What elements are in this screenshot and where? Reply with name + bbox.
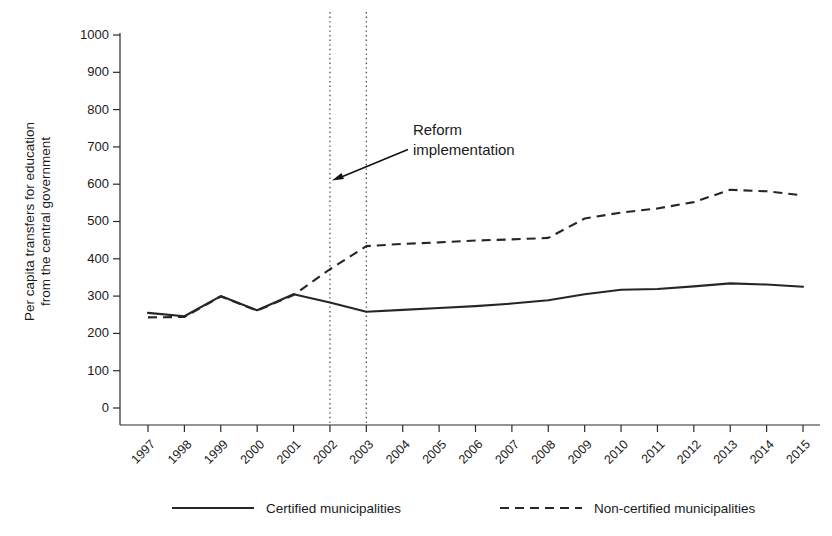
x-tick-label: 1998 bbox=[165, 437, 195, 467]
x-tick-label: 2004 bbox=[383, 437, 413, 467]
x-tick-label: 1999 bbox=[201, 437, 231, 467]
chart-legend: Certified municipalitiesNon-certified mu… bbox=[172, 501, 756, 516]
x-tick-label: 2011 bbox=[639, 437, 668, 466]
x-tick-label: 2010 bbox=[602, 437, 632, 467]
x-tick-label: 2009 bbox=[565, 437, 595, 467]
y-tick-label: 0 bbox=[102, 400, 109, 415]
x-tick-label: 2000 bbox=[238, 437, 268, 467]
chart-figure: Per capita transfers for educationfrom t… bbox=[0, 0, 832, 536]
y-tick-label: 600 bbox=[87, 176, 109, 191]
y-tick-label: 1000 bbox=[80, 27, 109, 42]
y-axis-ticks: 01002003004005006007008009001000 bbox=[80, 27, 120, 415]
x-tick-label: 1997 bbox=[129, 437, 159, 467]
x-tick-label: 2013 bbox=[711, 437, 741, 467]
axis-lines bbox=[120, 33, 820, 425]
line-chart: Per capita transfers for educationfrom t… bbox=[0, 0, 832, 536]
x-tick-label: 2005 bbox=[420, 437, 450, 467]
y-tick-label: 900 bbox=[87, 64, 109, 79]
reform-annotation: Reformimplementation bbox=[332, 121, 515, 180]
annotation-arrow-shaft bbox=[339, 149, 408, 178]
y-axis-title-line1: Per capita transfers for education bbox=[22, 122, 37, 321]
y-tick-label: 100 bbox=[87, 363, 109, 378]
series-line-certified-municipalities bbox=[148, 283, 803, 316]
x-tick-label: 2003 bbox=[347, 437, 377, 467]
x-tick-label: 2006 bbox=[456, 437, 486, 467]
x-tick-label: 2012 bbox=[674, 437, 704, 467]
x-tick-label: 2015 bbox=[784, 437, 814, 467]
x-tick-label: 2014 bbox=[747, 437, 777, 467]
y-tick-label: 800 bbox=[87, 102, 109, 117]
y-tick-label: 500 bbox=[87, 213, 109, 228]
y-axis-title: Per capita transfers for educationfrom t… bbox=[22, 122, 53, 321]
y-tick-label: 200 bbox=[87, 325, 109, 340]
annotation-arrow-head bbox=[332, 173, 344, 181]
y-tick-label: 400 bbox=[87, 251, 109, 266]
legend-label-certified-municipalities: Certified municipalities bbox=[266, 501, 401, 516]
y-tick-label: 700 bbox=[87, 139, 109, 154]
annotation-text-line2: implementation bbox=[413, 141, 515, 158]
annotation-text-line1: Reform bbox=[413, 121, 462, 138]
x-tick-label: 2001 bbox=[274, 437, 304, 467]
x-tick-label: 2007 bbox=[492, 437, 522, 467]
reference-lines bbox=[330, 12, 366, 425]
y-axis-title-line2: from the central government bbox=[38, 137, 53, 306]
y-tick-label: 300 bbox=[87, 288, 109, 303]
legend-label-non-certified-municipalities: Non-certified municipalities bbox=[594, 501, 756, 516]
x-axis-ticks: 1997199819992000200120022003200420052006… bbox=[129, 425, 814, 467]
x-tick-label: 2008 bbox=[529, 437, 559, 467]
data-series bbox=[148, 190, 803, 318]
x-tick-label: 2002 bbox=[310, 437, 340, 467]
series-line-non-certified-municipalities bbox=[148, 190, 803, 318]
